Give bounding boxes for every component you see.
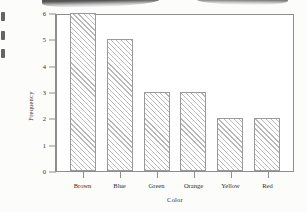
x-tick-label-blue: Blue [102, 182, 138, 189]
x-tick [83, 172, 84, 178]
y-tick-label: 4 [43, 63, 46, 70]
y-tick-label: 1 [43, 142, 46, 149]
y-tick [49, 145, 56, 146]
bar-chart-figure: 0123456 Frequency BrownBlueGreenOrangeYe… [0, 0, 307, 212]
plot-area [57, 15, 293, 171]
y-tick [49, 14, 56, 15]
x-tick-label-yellow: Yellow [213, 182, 249, 189]
x-tick-label-orange: Orange [176, 182, 212, 189]
y-axis-title: Frequency [27, 91, 34, 120]
y-tick [49, 119, 56, 120]
x-tick [194, 172, 195, 178]
bar-green [144, 92, 170, 171]
x-tick [157, 172, 158, 178]
bar-brown [70, 13, 96, 171]
bar-red [254, 118, 280, 171]
x-tick-label-brown: Brown [65, 182, 101, 189]
x-tick [268, 172, 269, 178]
plot-frame [56, 14, 294, 172]
y-tick-label: 5 [43, 37, 46, 44]
y-tick [49, 172, 56, 173]
y-tick [49, 93, 56, 94]
bar-blue [107, 39, 133, 171]
x-tick-label-red: Red [250, 182, 286, 189]
x-tick-label-green: Green [139, 182, 175, 189]
y-tick-label: 3 [43, 90, 46, 97]
y-tick [49, 66, 56, 67]
y-tick-label: 2 [43, 116, 46, 123]
bar-yellow [217, 118, 243, 171]
x-axis [56, 172, 294, 180]
bar-orange [180, 92, 206, 171]
x-tick [120, 172, 121, 178]
bar-series [65, 15, 285, 171]
y-axis: 0123456 [48, 14, 56, 172]
x-axis-title: Color [56, 196, 294, 203]
y-tick [49, 40, 56, 41]
y-tick-label: 0 [43, 169, 46, 176]
y-tick-label: 6 [43, 11, 46, 18]
x-tick [231, 172, 232, 178]
x-tick-labels: BrownBlueGreenOrangeYellowRed [64, 182, 286, 189]
